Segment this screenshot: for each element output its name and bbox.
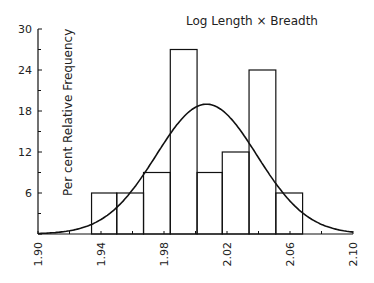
- normal-curve: [38, 104, 353, 233]
- y-tick-label: 30: [18, 23, 32, 36]
- histogram-bar: [170, 50, 197, 235]
- x-tick-label: 1.90: [32, 242, 45, 267]
- x-tick-label: 2.06: [284, 242, 297, 267]
- histogram-bar: [197, 173, 222, 235]
- x-tick-label: 1.98: [158, 242, 171, 267]
- histogram-bar: [222, 152, 249, 234]
- histogram-bar: [92, 193, 117, 234]
- chart-title: Log Length × Breadth: [186, 14, 318, 28]
- y-tick-label: 18: [18, 105, 32, 118]
- x-tick-label: 2.02: [221, 242, 234, 267]
- y-tick-label: 24: [18, 64, 32, 77]
- histogram-bar: [144, 173, 171, 235]
- histogram-bar: [117, 193, 144, 234]
- x-tick-label: 1.94: [95, 242, 108, 267]
- y-tick-label: 12: [18, 146, 32, 159]
- histogram-chart: Log Length × Breadth 6121824301.901.941.…: [0, 0, 374, 283]
- histogram-bar: [249, 70, 276, 234]
- histogram-bars: [92, 50, 303, 235]
- y-axis-label: Per cent Relative Frequency: [61, 29, 75, 196]
- y-tick-label: 6: [25, 187, 32, 200]
- x-tick-label: 2.10: [347, 242, 360, 267]
